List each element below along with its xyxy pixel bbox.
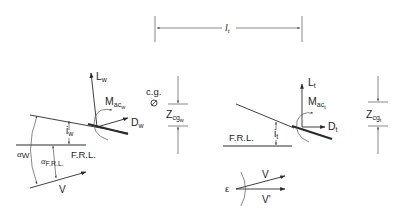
tail-zcg-label: Zcgt <box>366 108 382 123</box>
downwash-velocity-prime-label: V' <box>262 194 271 205</box>
wing-zcg-label: Zcgw <box>166 108 184 123</box>
downwash-velocity-label: V <box>262 169 269 180</box>
tail-incidence-label: it <box>274 128 278 140</box>
center-of-gravity: c.g. <box>146 86 161 106</box>
tail-drag-label: Dt <box>328 120 338 133</box>
cg-label: c.g. <box>146 86 161 97</box>
alpha-w-label: αW <box>17 149 30 160</box>
wing-velocity-label: V <box>59 184 66 195</box>
tail-zcg-dimension: Zcgt <box>366 76 388 154</box>
wing-tail-diagram: lt iw F.R.L. V αW αF.R.L. Lw Macw Dw <box>0 0 406 218</box>
wing-frl-label: F.R.L. <box>71 149 96 160</box>
tail-arm-label: lt <box>225 22 231 35</box>
downwash-diagram: ε V V' <box>225 169 285 206</box>
tail-frl-label: F.R.L. <box>229 132 254 143</box>
tail-arm-dimension: lt <box>155 16 302 42</box>
tail-section: F.R.L. it Lt Mact Dt <box>223 76 338 146</box>
tail-moment-label: Mact <box>308 95 326 110</box>
wing-drag-label: Dw <box>131 116 145 129</box>
epsilon-label: ε <box>225 183 230 194</box>
alpha-frl-label: αF.R.L. <box>41 156 64 167</box>
wing-section: iw F.R.L. V αW αF.R.L. Lw Macw Dw <box>16 70 145 195</box>
wing-lift-label: Lw <box>96 70 108 83</box>
tail-lift-label: Lt <box>308 76 316 89</box>
wing-zcg-dimension: Zcgw <box>166 76 188 154</box>
wing-moment-label: Macw <box>105 95 125 110</box>
wing-incidence-label: iw <box>66 125 74 137</box>
